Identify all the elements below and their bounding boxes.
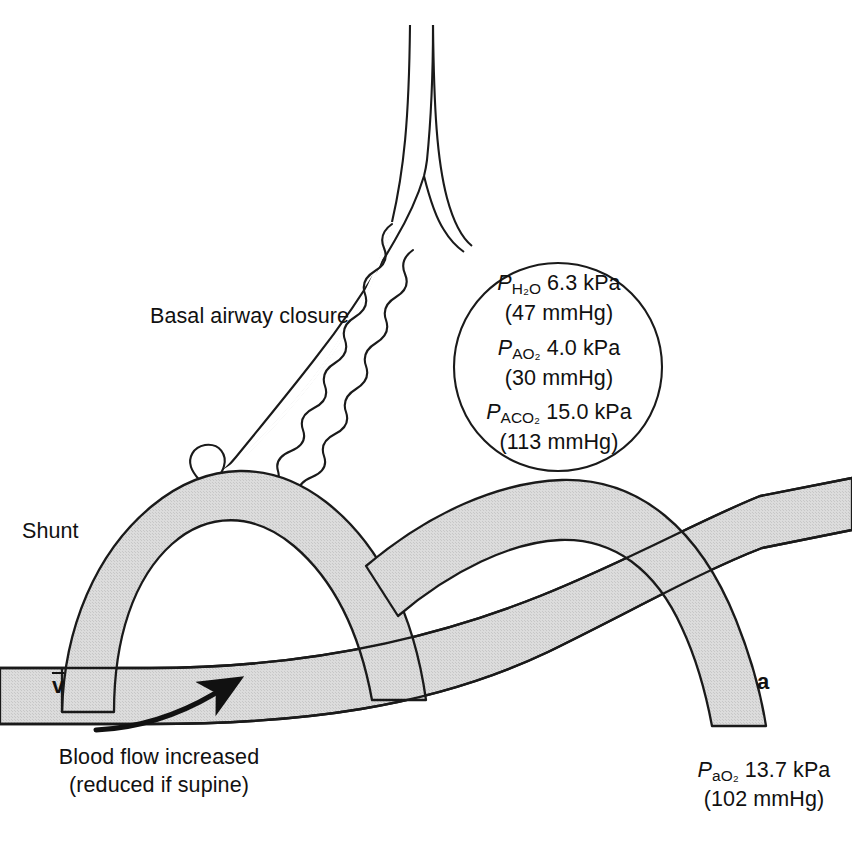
alveolar-gas-h2o-symbol: P bbox=[497, 271, 511, 295]
arterial-gas-value: 13.7 kPa bbox=[745, 758, 831, 782]
blood-flow-line-1: Blood flow increased bbox=[28, 744, 290, 772]
alveolar-gas-h2o-value: 6.3 kPa bbox=[547, 271, 621, 295]
alveolar-gas-co2-symbol: P bbox=[486, 400, 500, 424]
arterial-gas-subscript: a bbox=[712, 767, 721, 784]
basal-airway-closure-text: Basal airway closure bbox=[150, 303, 326, 331]
closed-airway-wave-inner bbox=[287, 250, 413, 515]
alveolar-gas-o2: PAO₂ 4.0 kPa bbox=[455, 335, 663, 364]
closed-airway-wave-outer bbox=[252, 224, 392, 505]
alveolar-gas-h2o: PH₂O 6.3 kPa bbox=[455, 270, 663, 299]
vessel-system bbox=[0, 471, 852, 726]
figure-canvas: Basal airway closure Shunt v a Blood flo… bbox=[0, 0, 852, 846]
label-blood-flow: Blood flow increased (reduced if supine) bbox=[28, 744, 290, 799]
closed-airway-wavy-left bbox=[213, 222, 392, 477]
airway-tree bbox=[190, 25, 472, 515]
blood-flow-line-2: (reduced if supine) bbox=[28, 772, 290, 800]
shunt-text: Shunt bbox=[22, 519, 79, 543]
alveolar-gas-co2-subscript: ACO₂ bbox=[501, 410, 541, 427]
label-arterial: a bbox=[757, 668, 769, 696]
label-shunt: Shunt bbox=[22, 518, 79, 546]
arterial-gas-converted: (102 mmHg) bbox=[676, 786, 852, 814]
arterial-gas-values: PaO₂ 13.7 kPa (102 mmHg) bbox=[676, 757, 852, 814]
label-basal-airway-closure: Basal airway closure bbox=[150, 303, 326, 331]
alveolar-gas-o2-symbol: P bbox=[498, 336, 512, 360]
alveolar-gas-co2-value: 15.0 kPa bbox=[546, 400, 632, 424]
alveolar-gas-co2-converted: (113 mmHg) bbox=[455, 429, 663, 457]
label-mixed-venous: v bbox=[52, 672, 64, 700]
alveolar-gas-o2-subscript: AO₂ bbox=[512, 345, 540, 362]
alveolar-gas-h2o-subscript: H₂O bbox=[512, 280, 541, 297]
arterial-gas-symbol: P bbox=[698, 758, 712, 782]
arterial-gas-subscript2: O₂ bbox=[721, 767, 739, 784]
alveolar-gas-values: PH₂O 6.3 kPa (47 mmHg) PAO₂ 4.0 kPa (30 … bbox=[455, 270, 663, 457]
arterial-symbol: a bbox=[757, 669, 769, 694]
diagram-graphic bbox=[0, 0, 852, 846]
alveolar-gas-h2o-converted: (47 mmHg) bbox=[455, 300, 663, 328]
arterial-gas-line: PaO₂ 13.7 kPa bbox=[676, 757, 852, 786]
alveolar-gas-co2: PACO₂ 15.0 kPa bbox=[455, 399, 663, 428]
trachea-right-wall bbox=[424, 25, 433, 176]
right-bronchus-outer-wall bbox=[433, 25, 472, 246]
alveolar-gas-o2-converted: (30 mmHg) bbox=[455, 365, 663, 393]
alveolar-gas-o2-value: 4.0 kPa bbox=[547, 336, 621, 360]
mixed-venous-symbol: v bbox=[52, 672, 64, 697]
